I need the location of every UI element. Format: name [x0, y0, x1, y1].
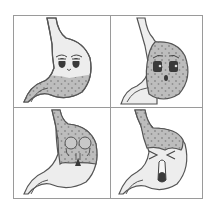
worried-stomach-illustration: [111, 16, 206, 106]
skull-stomach-illustration: [14, 108, 109, 198]
panel-pain-stomach: [111, 108, 206, 198]
four-panel-grid: [13, 15, 203, 199]
panel-skull-stomach: [14, 108, 109, 198]
calm-stomach-illustration: [14, 16, 109, 106]
mouth-tongue: [158, 172, 166, 182]
panel-calm-stomach: [14, 16, 109, 106]
panel-worried-stomach: [111, 16, 206, 106]
pain-stomach-illustration: [111, 108, 206, 198]
worried-mouth: [164, 75, 168, 81]
